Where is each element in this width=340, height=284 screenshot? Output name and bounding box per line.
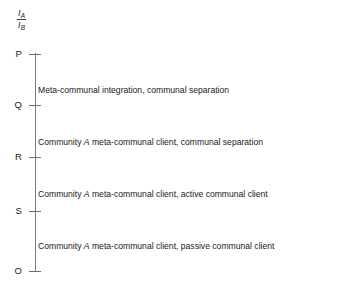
axis-tick-label-s: S (0, 206, 22, 216)
band-text-s-o-post: meta-communal client, passive communal c… (90, 241, 275, 251)
axis-title-ratio: IA IB (17, 8, 26, 31)
axis-tick-label-r: R (0, 152, 22, 162)
band-label-q-r: Community A meta-communal client, commun… (38, 137, 263, 148)
band-text-s-o-pre: Community (38, 241, 84, 251)
band-text-q-r-pre: Community (38, 137, 84, 147)
band-text-q-r-post: meta-communal client, communal separatio… (90, 137, 263, 147)
band-text-p-q-pre: Meta-communal integration, communal sepa… (38, 85, 229, 95)
vertical-axis-line (35, 53, 36, 272)
band-label-p-q: Meta-communal integration, communal sepa… (38, 85, 229, 96)
axis-title-numerator: IA (17, 8, 26, 20)
axis-tick-label-p: P (0, 49, 22, 59)
axis-tick-q (29, 105, 41, 106)
band-label-r-s: Community A meta-communal client, active… (38, 189, 268, 200)
axis-tick-label-q: Q (0, 100, 22, 110)
axis-tick-o (29, 271, 41, 272)
band-text-r-s-post: meta-communal client, active communal cl… (90, 189, 268, 199)
axis-title-numerator-subscript: A (21, 12, 25, 19)
axis-tick-r (29, 157, 41, 158)
band-text-r-s-pre: Community (38, 189, 84, 199)
axis-tick-label-o: O (0, 266, 22, 276)
band-label-s-o: Community A meta-communal client, passiv… (38, 241, 274, 252)
axis-title-denominator: IB (17, 20, 26, 31)
axis-title-denominator-subscript: B (21, 24, 25, 31)
figure-canvas: IA IB P Q R S O Meta-communal integratio… (0, 0, 340, 284)
axis-tick-s (29, 211, 41, 212)
axis-tick-p (29, 54, 41, 55)
